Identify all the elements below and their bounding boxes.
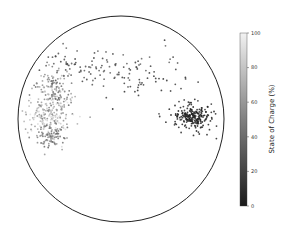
- colorbar-tick-label: 100: [251, 30, 261, 36]
- colorbar-label: State of Charge (%): [268, 84, 276, 153]
- soc-scatter-chart: 020406080100 State of Charge (%): [0, 0, 291, 237]
- colorbar-tick-label: 60: [251, 99, 257, 105]
- colorbar-ticks: 020406080100: [247, 30, 261, 209]
- colorbar-tick-label: 80: [251, 64, 257, 70]
- colorbar-gradient: [240, 33, 247, 206]
- scatter-points: [22, 39, 218, 155]
- chart-canvas: 020406080100 State of Charge (%): [0, 0, 291, 237]
- colorbar-tick-label: 20: [251, 168, 257, 174]
- colorbar: 020406080100 State of Charge (%): [240, 30, 276, 209]
- colorbar-tick-label: 40: [251, 134, 257, 140]
- colorbar-tick-label: 0: [251, 203, 254, 209]
